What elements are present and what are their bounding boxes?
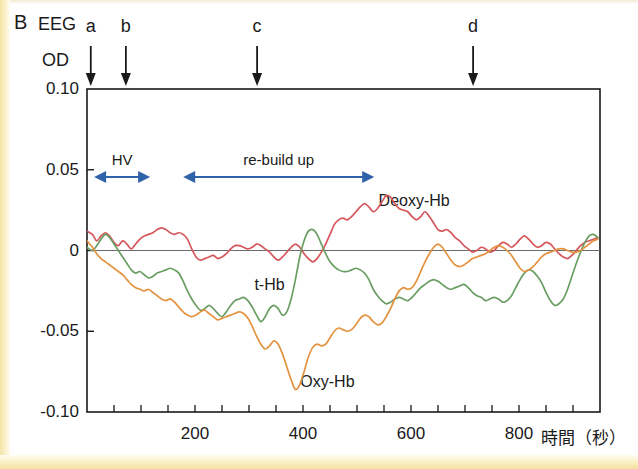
event-arrow-head-a — [86, 73, 96, 86]
annotation-arrow-head-right — [362, 171, 374, 183]
annotation-arrow-head-left — [94, 171, 106, 183]
event-arrow-head-c — [252, 73, 262, 86]
event-arrow-head-b — [121, 73, 131, 86]
series-line-t-hb — [87, 229, 598, 321]
annotation-arrow-head-right — [138, 171, 150, 183]
chart-plot-area — [0, 0, 638, 469]
annotation-arrow-head-left — [183, 171, 195, 183]
figure-panel-b: B EEG OD abcd 0.100.050-0.05-0.10 200400… — [0, 0, 638, 469]
series-group — [87, 195, 598, 389]
series-line-deoxy-hb — [87, 195, 598, 261]
event-arrow-head-d — [468, 73, 478, 86]
series-line-oxy-hb — [87, 239, 598, 389]
